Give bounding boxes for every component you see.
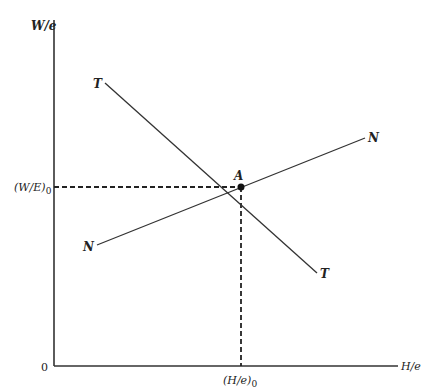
x-axis-label: H/e bbox=[400, 360, 421, 373]
y-equilibrium-value-label: (W/E)0 bbox=[14, 181, 52, 196]
curve-n bbox=[97, 138, 365, 245]
y-axis-label: W/e bbox=[31, 19, 57, 33]
curve-t-end-label: T bbox=[320, 267, 330, 281]
diagram-canvas: W/e H/e 0 T T N N A (W/E)0 (H/e)0 bbox=[0, 0, 427, 392]
curve-t-start-label: T bbox=[93, 77, 103, 91]
equilibrium-point bbox=[238, 184, 245, 191]
curve-n-end-label: N bbox=[367, 131, 380, 145]
curve-t bbox=[105, 83, 317, 273]
origin-label: 0 bbox=[41, 361, 48, 374]
equilibrium-label: A bbox=[233, 169, 243, 183]
curve-n-start-label: N bbox=[82, 240, 95, 254]
x-equilibrium-value-label: (H/e)0 bbox=[223, 374, 257, 389]
